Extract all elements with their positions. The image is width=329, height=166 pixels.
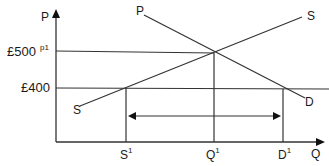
- q1-label: Q1: [206, 149, 220, 161]
- s1-label: S1: [120, 149, 132, 161]
- arrow-left-icon: [128, 112, 136, 120]
- demand-curve: [144, 15, 305, 98]
- d1-label-main: D: [278, 148, 287, 162]
- d1-label-sup: 1: [287, 146, 291, 155]
- d1-label: D1: [278, 149, 291, 161]
- supply-curve: [80, 17, 302, 106]
- x-axis-label: Q: [311, 148, 320, 160]
- price-label-500: £500: [7, 45, 36, 58]
- demand-end-label: D: [305, 96, 314, 108]
- price-line-500: [56, 51, 214, 53]
- price-label-400: £400: [21, 81, 50, 94]
- supply-start-label: S: [73, 104, 81, 116]
- supply-end-label: S: [307, 10, 315, 22]
- y-axis-arrow-icon: [52, 9, 60, 18]
- y-axis-label: P: [41, 11, 49, 23]
- x-axis-arrow-icon: [316, 138, 325, 146]
- arrow-right-icon: [273, 112, 281, 120]
- q1-label-sup: 1: [215, 146, 219, 155]
- price-annotation-p1: p1: [40, 44, 49, 52]
- supply-demand-diagram: P Q £500 p1 £400 P S S D S1 Q1 D1: [0, 0, 329, 166]
- demand-start-label: P: [136, 5, 144, 17]
- q1-label-main: Q: [206, 148, 215, 162]
- s1-label-main: S: [120, 148, 128, 162]
- s1-label-sup: 1: [128, 146, 132, 155]
